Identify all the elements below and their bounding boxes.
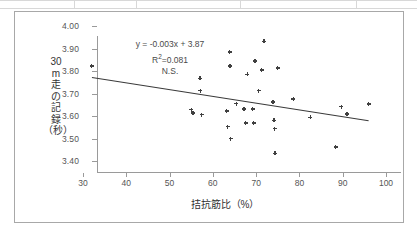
y-axis-tick bbox=[92, 139, 97, 140]
data-point bbox=[242, 107, 246, 111]
data-point bbox=[257, 89, 261, 93]
data-point bbox=[191, 111, 195, 115]
table-row-remnant bbox=[0, 0, 417, 9]
significance-label: N.S. bbox=[110, 66, 230, 78]
x-axis-tick bbox=[343, 173, 344, 177]
y-axis-tick-label: 3.40 bbox=[45, 156, 79, 166]
regression-trendline bbox=[92, 77, 369, 121]
data-point bbox=[228, 50, 232, 54]
y-axis-line bbox=[97, 36, 98, 173]
data-point bbox=[200, 113, 204, 117]
x-axis-tick bbox=[170, 173, 171, 177]
data-point bbox=[291, 97, 295, 101]
data-point bbox=[273, 151, 277, 155]
data-point bbox=[234, 102, 238, 106]
data-point bbox=[273, 127, 277, 131]
data-point bbox=[225, 109, 229, 113]
regression-annotation: y = -0.003x + 3.87 R2=0.081 N.S. bbox=[110, 39, 230, 77]
y-axis-tick-label: 3.80 bbox=[45, 66, 79, 76]
x-axis-tick bbox=[213, 173, 214, 177]
data-point bbox=[229, 137, 233, 141]
data-point bbox=[90, 64, 94, 68]
data-point bbox=[345, 112, 349, 116]
data-point bbox=[198, 76, 202, 80]
x-axis-tick-label: 60 bbox=[198, 178, 228, 188]
y-axis-tick bbox=[92, 161, 97, 162]
y-axis-tick-label: 4.00 bbox=[45, 21, 79, 31]
data-point bbox=[253, 59, 257, 63]
data-point bbox=[260, 68, 264, 72]
x-axis-tick bbox=[299, 173, 300, 177]
x-axis-tick bbox=[386, 173, 387, 177]
r-squared-value: =0.081 bbox=[162, 54, 188, 64]
y-axis-tick-label: 3.70 bbox=[45, 89, 79, 99]
data-point bbox=[271, 100, 275, 104]
y-axis-tick-label: 3.60 bbox=[45, 111, 79, 121]
x-axis-tick bbox=[256, 173, 257, 177]
x-axis-tick-label: 80 bbox=[284, 178, 314, 188]
y-axis-tick bbox=[92, 26, 97, 27]
r-squared-text: R2=0.081 bbox=[110, 51, 230, 66]
x-axis-tick-label: 70 bbox=[241, 178, 271, 188]
x-axis-tick-label: 100 bbox=[371, 178, 401, 188]
data-point bbox=[245, 72, 249, 76]
y-axis-tick bbox=[92, 71, 97, 72]
data-point bbox=[367, 102, 371, 106]
data-point bbox=[198, 89, 202, 93]
chart-frame: y = -0.003x + 3.87 R2=0.081 N.S. 30m走の記録… bbox=[14, 11, 404, 223]
data-point bbox=[272, 118, 276, 122]
data-point bbox=[252, 121, 256, 125]
y-axis-tick bbox=[92, 116, 97, 117]
y-axis-tick-label: 3.50 bbox=[45, 134, 79, 144]
data-point bbox=[226, 125, 230, 129]
x-axis-tick-label: 50 bbox=[155, 178, 185, 188]
x-axis-tick bbox=[126, 173, 127, 177]
data-point bbox=[244, 121, 248, 125]
y-axis-tick bbox=[92, 94, 97, 95]
data-point bbox=[334, 145, 338, 149]
y-axis-tick-label: 3.90 bbox=[45, 44, 79, 54]
data-point bbox=[276, 66, 280, 70]
x-axis-tick-label: 40 bbox=[111, 178, 141, 188]
data-point bbox=[339, 105, 343, 109]
x-axis-tick-label: 90 bbox=[328, 178, 358, 188]
y-axis-tick bbox=[92, 49, 97, 50]
x-axis-line bbox=[97, 172, 401, 173]
data-point bbox=[308, 115, 312, 119]
data-point bbox=[228, 64, 232, 68]
x-axis-tick bbox=[83, 173, 84, 177]
x-axis-tick-label: 30 bbox=[68, 178, 98, 188]
data-point bbox=[262, 39, 266, 43]
x-axis-title: 拮抗筋比（%） bbox=[165, 196, 285, 211]
data-point bbox=[251, 107, 255, 111]
regression-equation: y = -0.003x + 3.87 bbox=[110, 39, 230, 51]
screenshot-root: y = -0.003x + 3.87 R2=0.081 N.S. 30m走の記録… bbox=[0, 0, 417, 233]
